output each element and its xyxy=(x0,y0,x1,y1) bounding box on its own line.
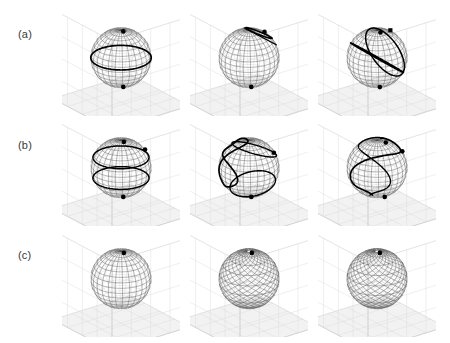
axis-box-a2 xyxy=(190,9,308,116)
endpoint-marker xyxy=(143,147,148,152)
sphere-panel-a3 xyxy=(318,8,436,116)
row-label-b: (b) xyxy=(18,139,32,151)
markers-c1 xyxy=(122,251,127,256)
sphere-panel-c2 xyxy=(190,229,308,337)
markers-c3 xyxy=(378,251,383,256)
north-pole-marker xyxy=(122,251,127,256)
south-pole-marker xyxy=(249,85,254,90)
row-label-c: (c) xyxy=(18,249,31,261)
north-pole-marker xyxy=(122,140,127,145)
sphere-panel-a1 xyxy=(62,8,180,116)
north-pole-marker xyxy=(121,29,126,34)
figure-canvas: (a)(b)(c) xyxy=(0,0,450,343)
bottom-marker xyxy=(382,195,387,200)
sphere-panel-c3 xyxy=(318,229,436,337)
south-pole-marker xyxy=(378,85,383,90)
axis-box-c3 xyxy=(318,230,436,337)
south-pole-marker xyxy=(121,85,126,90)
axis-box-b3 xyxy=(318,119,436,226)
sphere-panel-b1 xyxy=(62,118,180,226)
north-pole-marker xyxy=(250,251,255,256)
axis-box-c2 xyxy=(190,230,308,337)
south-pole-marker xyxy=(249,195,254,200)
axis-box-b1 xyxy=(62,119,180,226)
sphere-panel-a2 xyxy=(190,8,308,116)
sphere-panel-c1 xyxy=(62,229,180,337)
endpoint-marker xyxy=(262,30,267,35)
endpoint-marker xyxy=(388,28,392,32)
sphere-panel-b2 xyxy=(190,118,308,226)
mid-marker xyxy=(400,149,405,154)
top-marker xyxy=(383,140,388,145)
north-pole-marker xyxy=(378,30,383,35)
south-pole-marker xyxy=(121,195,126,200)
axis-box-c1 xyxy=(62,230,180,337)
axis-box-a1 xyxy=(62,9,180,116)
sphere-panel-b3 xyxy=(318,118,436,226)
row-label-a: (a) xyxy=(18,28,32,40)
north-pole-marker xyxy=(378,251,383,256)
endpoint-marker xyxy=(272,151,277,156)
markers-c2 xyxy=(250,251,255,256)
